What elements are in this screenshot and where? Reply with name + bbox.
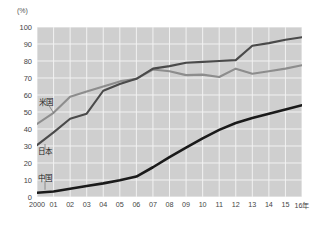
y-axis-tick-label: 50 xyxy=(12,108,32,117)
y-axis-tick-label: 90 xyxy=(12,40,32,49)
x-axis-tick-label: 09 xyxy=(182,200,190,209)
series-annotation-china: 中国 xyxy=(38,172,52,183)
series-annotation-japan: 日本 xyxy=(38,145,52,156)
y-axis-tick-label: 10 xyxy=(12,176,32,185)
line-chart: (%) 0102030405060708090100 2000010203040… xyxy=(0,0,318,227)
x-axis-tick-label: 02 xyxy=(66,200,74,209)
x-axis-tick-label: 01 xyxy=(50,200,58,209)
y-axis-tick-label: 30 xyxy=(12,142,32,151)
x-axis-tick-label: 05 xyxy=(116,200,124,209)
x-axis-tick-label: 03 xyxy=(83,200,91,209)
x-axis-tick-label: 04 xyxy=(99,200,107,209)
y-axis-tick-label: 60 xyxy=(12,91,32,100)
y-axis: 0102030405060708090100 xyxy=(12,0,32,227)
series-annotation-usa: 米国 xyxy=(39,96,53,107)
x-axis-tick-label: 14 xyxy=(265,200,273,209)
x-axis: 200001020304050607080910111213141516年 xyxy=(0,200,318,214)
plot-area xyxy=(37,27,302,197)
y-axis-tick-label: 40 xyxy=(12,125,32,134)
x-axis-tick-label: 06 xyxy=(132,200,140,209)
y-axis-tick-label: 20 xyxy=(12,159,32,168)
x-axis-tick-label: 11 xyxy=(215,200,222,209)
x-axis-tick-label: 07 xyxy=(149,200,157,209)
y-axis-tick-label: 100 xyxy=(12,23,32,32)
y-axis-tick-label: 80 xyxy=(12,57,32,66)
x-axis-tick-label: 16年 xyxy=(295,200,310,210)
x-axis-tick-label: 15 xyxy=(281,200,289,209)
x-axis-tick-label: 08 xyxy=(166,200,174,209)
x-axis-tick-label: 2000 xyxy=(29,200,45,209)
x-axis-tick-label: 13 xyxy=(248,200,256,209)
y-axis-tick-label: 70 xyxy=(12,74,32,83)
x-axis-tick-label: 10 xyxy=(199,200,207,209)
x-axis-tick-label: 12 xyxy=(232,200,240,209)
chart-canvas xyxy=(37,27,302,197)
